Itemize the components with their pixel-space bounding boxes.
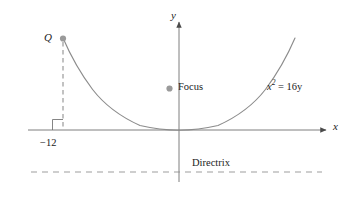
right-angle-marker xyxy=(53,120,64,131)
x-tick-label-neg12: −12 xyxy=(40,138,56,149)
directrix-label: Directrix xyxy=(192,158,230,169)
equation-label: x2 = 16y xyxy=(267,79,302,92)
point-q-marker xyxy=(60,35,66,41)
parabola-figure: Q y x Focus x2 = 16y −12 Directrix xyxy=(0,0,357,197)
plot-canvas xyxy=(0,0,357,197)
focus-label: Focus xyxy=(178,82,203,93)
equation-remainder: = 16y xyxy=(275,81,302,92)
point-q-label: Q xyxy=(44,32,52,43)
y-axis-label: y xyxy=(171,10,176,21)
focus-marker xyxy=(166,85,172,91)
x-axis-label: x xyxy=(333,121,338,132)
